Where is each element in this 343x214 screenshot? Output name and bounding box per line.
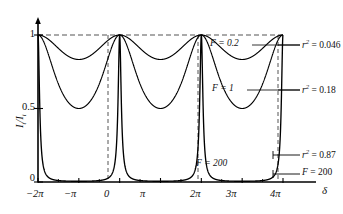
curve-label-f1: F = 1 (212, 83, 234, 93)
x-tick-label-negpi: −π (64, 188, 76, 199)
x-axis-title: δ (322, 184, 327, 196)
annotation-r2-0046: r2 = 0.046 (302, 38, 341, 50)
annotation-r2-0046-val: = 0.046 (309, 40, 340, 50)
y-axis-arrow (35, 17, 41, 24)
annotation-r2-087: r2 = 0.87 (302, 148, 336, 160)
x-tick-label-4pi: 4π (270, 188, 281, 199)
x-tick-label-neg2pi: −2π (26, 188, 44, 199)
annotation-r2-018-val: = 0.18 (309, 85, 336, 95)
leader-lines (273, 45, 300, 178)
y-tick-label-1: 1 (27, 28, 35, 39)
annotation-r2-087-val: = 0.87 (309, 150, 336, 160)
curve-f-0-2 (38, 35, 283, 60)
curve-label-f200: F = 200 (196, 158, 227, 168)
curve-label-f02: F = 0.2 (210, 38, 239, 48)
annotation-f-200-val: = 200 (308, 167, 332, 177)
curve-group (38, 35, 283, 181)
annotation-r2-018: r2 = 0.18 (302, 83, 336, 95)
y-axis-title-slash: /I (14, 116, 25, 122)
y-axis-title-main: I (14, 125, 25, 129)
x-tick-label-2pi: 2π (190, 188, 201, 199)
x-tick-label-0: 0 (104, 188, 109, 199)
curve-f-1 (38, 35, 283, 109)
plot-area (0, 0, 343, 214)
x-tick-label-3pi: 3π (226, 188, 237, 199)
y-axis-title: It/Ii (14, 114, 27, 128)
y-tick-label-0: 0 (27, 172, 35, 183)
y-axis-title-sub-i: i (20, 114, 27, 116)
annotation-f-200: F = 200 (302, 167, 332, 177)
x-tick-label-pi: π (140, 188, 145, 199)
figure-airy-transmission: It/Ii δ 1 0.5 0 −2π −π 0 π 2π 3π 4π F = … (0, 0, 343, 214)
y-tick-label-05: 0.5 (11, 101, 35, 112)
